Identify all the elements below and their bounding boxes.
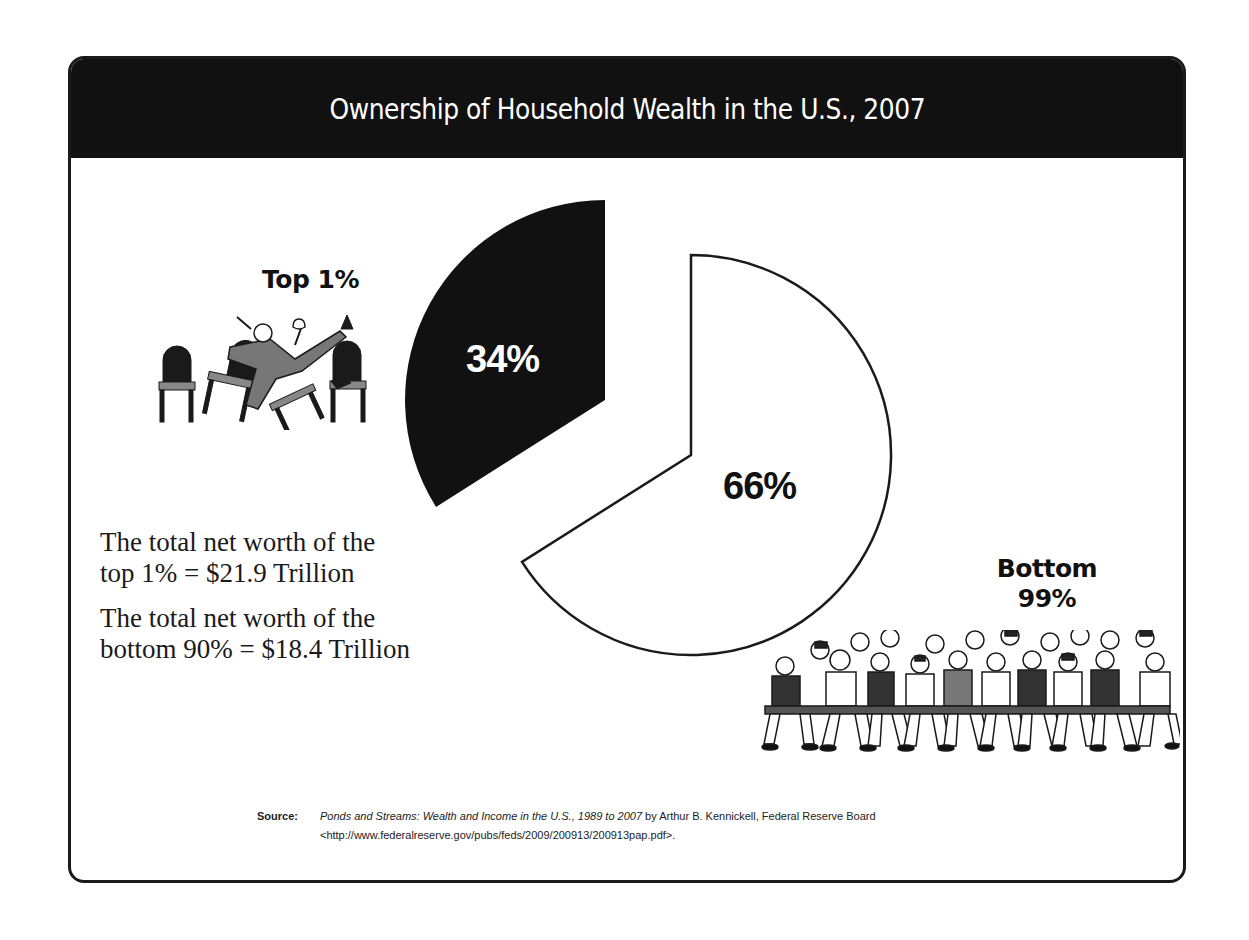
source-url: <http://www.federalreserve.gov/pubs/feds… [320,826,876,845]
stat-top-line2: top 1% = $21.9 Trillion [100,558,375,589]
group-label-top: Top 1% [262,265,359,295]
stat-bottom-line2: bottom 90% = $18.4 Trillion [100,634,410,665]
businessman-lounging-illustration [155,315,380,430]
source-key: Source: [257,807,298,845]
stat-top-1-net-worth: The total net worth of the top 1% = $21.… [100,527,375,589]
source-body: Ponds and Streams: Wealth and Income in … [320,807,876,845]
seated-crowd-illustration [760,630,1180,755]
group-label-bottom-line2: 99% [982,584,1112,614]
group-label-bottom: Bottom 99% [982,554,1112,614]
pie-chart [0,0,1249,940]
source-title: Ponds and Streams: Wealth and Income in … [320,810,642,822]
group-label-bottom-line1: Bottom [982,554,1112,584]
source-byline: by Arthur B. Kennickell, Federal Reserve… [642,810,876,822]
source-citation: Source: Ponds and Streams: Wealth and In… [257,807,876,845]
stat-bottom-90-net-worth: The total net worth of the bottom 90% = … [100,603,410,665]
slice-label-bottom: 66% [723,465,796,508]
stat-top-line1: The total net worth of the [100,527,375,558]
stat-bottom-line1: The total net worth of the [100,603,410,634]
slice-label-top: 34% [466,338,539,381]
